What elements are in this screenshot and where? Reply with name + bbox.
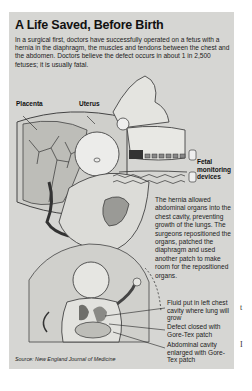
callout-abdominal: Abdominal cavity enlarged with Gore-Tex … (167, 341, 233, 364)
abdominal-organs (75, 322, 111, 338)
instrument-tip (117, 118, 129, 130)
label-fetal-monitoring: Fetal monitoring devices (197, 158, 233, 181)
callout-defect: Defect closed with Gore-Tex patch (167, 323, 233, 338)
infographic-panel: A Life Saved, Before Birth In a surgical… (9, 12, 234, 369)
callout-fluid: Fluid put in left chest cavity where lun… (167, 299, 233, 322)
margin-fragment-1: t (240, 303, 242, 312)
explanation-text: The hernia allowed abdominal organs into… (155, 196, 231, 280)
margin-fragment-2: I (240, 340, 243, 349)
source-credit: Source: New England Journal of Medicine (15, 356, 115, 362)
monitor-band (129, 150, 143, 159)
label-uterus: Uterus (79, 100, 100, 108)
monitor-device-2 (189, 172, 196, 182)
monitor-device-1 (189, 150, 196, 160)
fetus-head-lower (73, 262, 109, 298)
fetal-head (75, 132, 119, 176)
label-placenta: Placenta (16, 100, 43, 108)
